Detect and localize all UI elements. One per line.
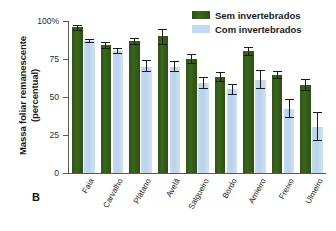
- error-bar-cap-top: [285, 99, 294, 100]
- y-tick-label: 25: [0, 130, 59, 140]
- x-tick-label: Avelã: [164, 177, 182, 199]
- error-bar-cap-top: [113, 48, 122, 49]
- error-bar-cap-top: [301, 79, 310, 80]
- error-bar: [244, 47, 253, 56]
- legend-item-sem-invertebrados: Sem invertebrados: [192, 9, 302, 21]
- bar: [84, 41, 95, 173]
- error-bar: [187, 54, 196, 64]
- error-bar-cap-bottom: [256, 88, 265, 89]
- error-bar-cap-top: [170, 61, 179, 62]
- error-bar-cap-bottom: [244, 55, 253, 56]
- error-bar: [85, 39, 94, 44]
- error-bar-cap-bottom: [199, 88, 208, 89]
- bar: [72, 27, 83, 173]
- y-tick-label: 0: [0, 168, 59, 178]
- error-bar-cap-bottom: [313, 140, 322, 141]
- bar: [300, 85, 311, 173]
- error-bar: [285, 99, 294, 118]
- y-tick-mark: [63, 21, 68, 22]
- error-bar-cap-top: [256, 70, 265, 71]
- error-bar-cap-bottom: [187, 63, 196, 64]
- error-bar-cap-bottom: [158, 44, 167, 45]
- bar: [272, 75, 283, 173]
- x-tick-label: Faia: [81, 177, 96, 195]
- legend-swatch-blue-icon: [192, 25, 210, 33]
- error-bar: [73, 25, 82, 31]
- x-tick-label: Carvalho: [101, 177, 124, 209]
- bar: [284, 109, 295, 173]
- error-bar-cap-top: [199, 77, 208, 78]
- error-bar-cap-top: [130, 38, 139, 39]
- y-tick-label: 50: [0, 92, 59, 102]
- bar: [129, 41, 140, 173]
- error-bar-cap-top: [313, 112, 322, 113]
- legend-item-com-invertebrados: Com invertebrados: [192, 23, 302, 35]
- error-bar: [199, 77, 208, 89]
- error-bar-cap-top: [273, 71, 282, 72]
- bar: [186, 59, 197, 173]
- bar: [243, 51, 254, 173]
- error-bar: [170, 61, 179, 72]
- legend-label: Com invertebrados: [215, 24, 302, 35]
- x-tick-label: Ulmeiro: [303, 177, 324, 205]
- y-tick-label: 75: [0, 54, 59, 64]
- error-bar: [113, 48, 122, 53]
- error-bar: [313, 112, 322, 141]
- error-bar: [256, 70, 265, 90]
- bar: [141, 67, 152, 173]
- x-tick-label: Freixo: [277, 177, 296, 201]
- error-bar-cap-top: [142, 60, 151, 61]
- error-bar-cap-top: [216, 72, 225, 73]
- error-bar-cap-bottom: [170, 71, 179, 72]
- legend: Sem invertebrados Com invertebrados: [192, 9, 302, 37]
- error-bar-cap-top: [73, 25, 82, 26]
- error-bar-cap-bottom: [301, 90, 310, 91]
- error-bar-cap-bottom: [85, 42, 94, 43]
- error-bar-cap-bottom: [142, 71, 151, 72]
- error-bar-cap-bottom: [130, 44, 139, 45]
- error-bar-cap-bottom: [285, 117, 294, 118]
- x-tick-label: Salgueiro: [186, 177, 210, 211]
- bar: [101, 45, 112, 173]
- error-bar: [228, 84, 237, 95]
- legend-swatch-green-icon: [192, 11, 210, 19]
- error-bar-cap-top: [187, 54, 196, 55]
- bar: [215, 77, 226, 173]
- error-bar-cap-top: [85, 39, 94, 40]
- error-bar-cap-bottom: [113, 53, 122, 54]
- error-bar-stem: [289, 99, 290, 118]
- error-bar-cap-bottom: [216, 81, 225, 82]
- error-bar: [216, 72, 225, 82]
- x-tick-label: Amieiro: [246, 177, 267, 205]
- error-bar-cap-top: [158, 29, 167, 30]
- y-tick-mark: [63, 97, 68, 98]
- y-tick-mark: [63, 135, 68, 136]
- error-bar: [273, 71, 282, 79]
- error-bar-stem: [317, 112, 318, 141]
- plot-area: [69, 21, 326, 173]
- y-tick-mark: [63, 59, 68, 60]
- error-bar-cap-bottom: [101, 48, 110, 49]
- error-bar-cap-top: [228, 84, 237, 85]
- error-bar: [101, 42, 110, 49]
- bar: [158, 36, 169, 173]
- panel-letter: B: [32, 191, 40, 203]
- x-tick-label: Plátano: [132, 177, 153, 205]
- bar-chart: Massa foliar remanescente (percentual) 1…: [0, 0, 336, 231]
- error-bar-stem: [260, 70, 261, 90]
- x-tick-label: Bordo: [221, 177, 239, 200]
- y-tick-label: 100%: [0, 16, 59, 26]
- bar: [170, 67, 181, 173]
- error-bar-stem: [162, 29, 163, 46]
- error-bar: [301, 79, 310, 91]
- error-bar-cap-top: [101, 42, 110, 43]
- bar: [113, 51, 124, 173]
- error-bar-cap-bottom: [228, 94, 237, 95]
- y-tick-mark: [63, 173, 68, 174]
- bar: [255, 80, 266, 173]
- error-bar: [130, 38, 139, 45]
- error-bar-cap-top: [244, 47, 253, 48]
- error-bar-cap-bottom: [73, 30, 82, 31]
- x-axis-line: [68, 173, 326, 174]
- bar: [227, 89, 238, 173]
